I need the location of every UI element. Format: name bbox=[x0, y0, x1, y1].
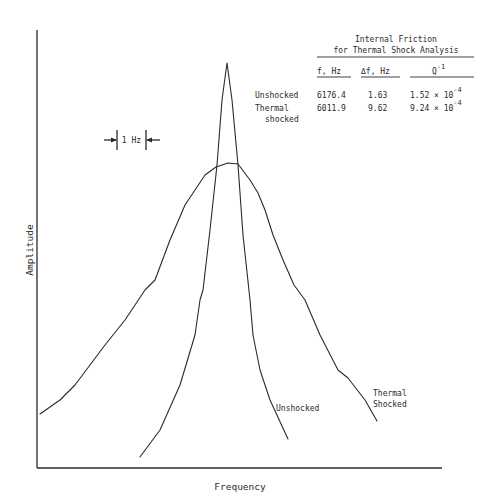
table-title-line2: for Thermal Shock Analysis bbox=[333, 46, 458, 55]
internal-friction-table: Internal Friction for Thermal Shock Anal… bbox=[255, 35, 474, 124]
header-df: Δf, Hz bbox=[361, 67, 390, 76]
y-axis-label: Amplitude bbox=[24, 224, 35, 276]
row-f: 6011.9 bbox=[317, 104, 346, 113]
row-f: 6176.4 bbox=[317, 91, 346, 100]
x-axis-label: Frequency bbox=[214, 481, 266, 492]
thermal-shocked-curve bbox=[40, 163, 377, 421]
row-q: 1.52 × 10-4 bbox=[410, 86, 462, 100]
row-label: Thermal bbox=[255, 104, 289, 113]
chart-canvas: Frequency Amplitude 1 Hz Unshocked Therm… bbox=[0, 0, 501, 497]
row-label-cont: shocked bbox=[265, 115, 299, 124]
scale-marker: 1 Hz bbox=[104, 130, 160, 150]
header-q: Q-1 bbox=[432, 63, 445, 76]
unshocked-label: Unshocked bbox=[276, 404, 320, 413]
table-title-line1: Internal Friction bbox=[355, 35, 437, 44]
header-f: f, Hz bbox=[317, 67, 341, 76]
thermal-label-line1: Thermal bbox=[373, 389, 407, 398]
row-df: 1.63 bbox=[368, 91, 387, 100]
thermal-label-line2: Shocked bbox=[373, 400, 407, 409]
row-q: 9.24 × 10-4 bbox=[410, 99, 462, 113]
scale-label: 1 Hz bbox=[122, 136, 141, 145]
row-label: Unshocked bbox=[255, 91, 299, 100]
row-df: 9.62 bbox=[368, 104, 387, 113]
